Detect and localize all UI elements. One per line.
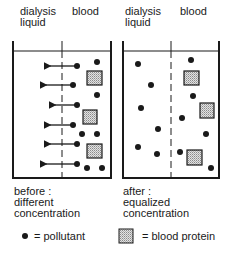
after-caption-line3: concentration: [123, 208, 189, 219]
pollutant-dot-icon: [74, 161, 80, 167]
pollutant-dot-icon: [190, 93, 196, 99]
legend-pollutant-label: = pollutant: [34, 231, 85, 242]
blood-protein-icon: [200, 103, 214, 118]
blood-protein-icon: [184, 71, 199, 85]
pollutant-dot-icon: [135, 144, 141, 150]
pollutant-dot-icon: [94, 92, 100, 98]
legend-protein-label: = blood protein: [142, 231, 215, 242]
blood-protein-icon: [83, 110, 97, 124]
pollutant-dot-icon: [148, 82, 154, 88]
pollutant-dot-icon: [177, 149, 183, 155]
after-container: [123, 41, 219, 178]
before-caption-line3: concentration: [14, 208, 80, 219]
pollutant-dot-icon: [70, 82, 76, 88]
dialysis-diagram: [0, 0, 235, 260]
pollutant-dot-icon: [79, 131, 85, 137]
pollutant-dot-icon: [135, 61, 141, 67]
pollutant-dot-icon: [84, 165, 90, 171]
blood-protein-icon: [87, 144, 102, 158]
blood-protein-icon: [187, 150, 202, 165]
pollutant-dot-icon: [70, 122, 76, 128]
pollutant-dot-icon: [74, 102, 80, 108]
pollutant-dot-icon: [94, 59, 100, 65]
pollutant-dot-icon: [208, 165, 214, 171]
blood-protein-icon: [87, 71, 102, 85]
pollutant-dot-icon: [74, 141, 80, 147]
legend-pollutant-icon: [22, 233, 28, 239]
pollutant-dot-icon: [154, 151, 160, 157]
pollutant-dot-icon: [155, 126, 161, 132]
legend-protein-icon: [119, 229, 133, 243]
pollutant-dot-icon: [188, 57, 194, 63]
before-container: [13, 41, 111, 178]
pollutant-dot-icon: [94, 131, 100, 137]
pollutant-dot-icon: [138, 105, 144, 111]
pollutant-dot-icon: [203, 131, 209, 137]
pollutant-dot-icon: [179, 115, 185, 121]
pollutant-dot-icon: [74, 63, 80, 69]
pollutant-dot-icon: [99, 165, 105, 171]
